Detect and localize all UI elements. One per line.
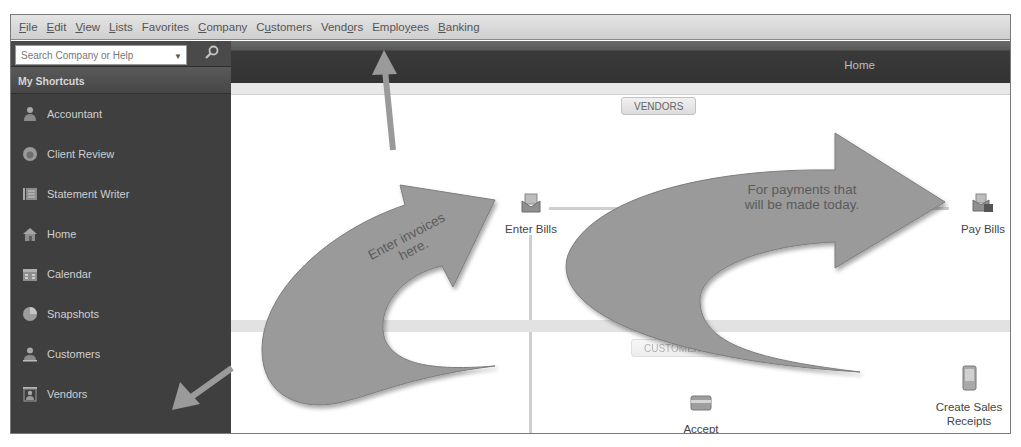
vendors-icon: [21, 385, 39, 403]
task-accept-credit-cards[interactable]: Accept Credit Cards: [661, 393, 741, 434]
sidebar-item-label: Customers: [47, 348, 100, 360]
menu-vendors[interactable]: Vendors: [321, 21, 363, 33]
section-badge-customers: CUSTOMERS: [631, 339, 721, 357]
menu-edit[interactable]: Edit: [47, 21, 67, 33]
task-label: Create Sales: [919, 400, 1011, 414]
task-label: Pay Bills: [947, 222, 1011, 236]
task-label: Accept: [661, 422, 741, 434]
search-button[interactable]: [201, 44, 223, 64]
sidebar-item-customers[interactable]: Customers: [11, 334, 231, 374]
task-enter-bills[interactable]: Enter Bills: [497, 193, 565, 236]
sidebar-item-label: Home: [47, 228, 76, 240]
sidebar-item-label: Client Review: [47, 148, 114, 160]
flow-connector: [529, 235, 532, 434]
task-label: Receipts: [919, 414, 1011, 428]
sidebar-item-label: Calendar: [47, 268, 92, 280]
menu-lists[interactable]: Lists: [109, 21, 133, 33]
customers-icon: [21, 345, 39, 363]
menu-customers[interactable]: Customers: [256, 21, 312, 33]
credit-card-icon: [690, 393, 712, 413]
menu-file[interactable]: File: [19, 21, 38, 33]
chevron-down-icon[interactable]: ▼: [174, 52, 182, 61]
task-label: Enter Bills: [497, 222, 565, 236]
accountant-icon: [21, 105, 39, 123]
title-subbar: [231, 83, 1010, 95]
sidebar-item-home[interactable]: Home: [11, 214, 231, 254]
menu-favorites[interactable]: Favorites: [142, 21, 189, 33]
sidebar-item-label: Snapshots: [47, 308, 99, 320]
section-divider: [231, 320, 1010, 332]
client-review-icon: [21, 145, 39, 163]
search-icon: [204, 44, 220, 60]
sidebar-item-label: Statement Writer: [47, 188, 129, 200]
task-create-sales-receipts[interactable]: Create Sales Receipts: [919, 365, 1011, 428]
pay-bills-icon: [972, 193, 994, 213]
app-window: File Edit View Lists Favorites Company C…: [10, 14, 1011, 434]
home-title-bar: Home: [231, 41, 1010, 83]
sidebar-item-label: Vendors: [47, 388, 87, 400]
search-input[interactable]: Search Company or Help ▼: [15, 45, 187, 65]
task-pay-bills[interactable]: Pay Bills: [947, 193, 1011, 236]
menu-banking[interactable]: Banking: [438, 21, 480, 33]
home-workflow: VENDORS CUSTOMERS Enter Bills Pay Bills …: [231, 95, 1010, 433]
snapshots-icon: [21, 305, 39, 323]
sidebar: Search Company or Help ▼ My Shortcuts Ac…: [11, 41, 231, 434]
home-icon: [21, 225, 39, 243]
sidebar-item-snapshots[interactable]: Snapshots: [11, 294, 231, 334]
menu-view[interactable]: View: [75, 21, 100, 33]
sales-receipt-icon: [958, 365, 980, 391]
menu-company[interactable]: Company: [198, 21, 247, 33]
sidebar-item-accountant[interactable]: Accountant: [11, 94, 231, 134]
page-title: Home: [844, 59, 875, 71]
shortcuts-header: My Shortcuts: [11, 67, 231, 94]
callout-text-payments-today: For payments that will be made today.: [722, 182, 882, 212]
sidebar-item-vendors[interactable]: Vendors: [11, 374, 231, 414]
search-row: Search Company or Help ▼: [11, 41, 231, 67]
sidebar-item-calendar[interactable]: Calendar: [11, 254, 231, 294]
sidebar-item-client-review[interactable]: Client Review: [11, 134, 231, 174]
enter-bills-icon: [520, 193, 542, 213]
menu-bar: File Edit View Lists Favorites Company C…: [11, 15, 1010, 40]
menu-employees[interactable]: Employees: [372, 21, 429, 33]
search-placeholder: Search Company or Help: [21, 50, 133, 61]
calendar-icon: [21, 265, 39, 283]
sidebar-item-label: Accountant: [47, 108, 102, 120]
statement-writer-icon: [21, 185, 39, 203]
sidebar-item-statement-writer[interactable]: Statement Writer: [11, 174, 231, 214]
section-badge-vendors: VENDORS: [621, 97, 696, 115]
